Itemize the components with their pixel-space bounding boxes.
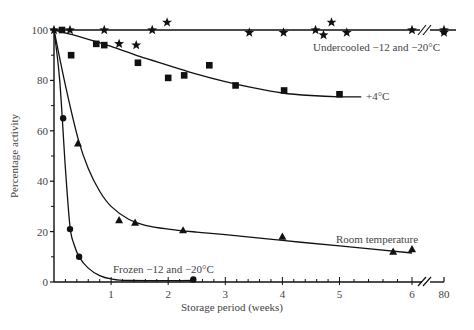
square-marker-icon xyxy=(59,27,66,34)
x-axis-label: Storage period (weeks) xyxy=(181,301,283,314)
label-room-temperature: Room temperature xyxy=(336,233,418,245)
square-marker-icon xyxy=(165,75,172,82)
circle-marker-icon xyxy=(60,115,66,121)
square-marker-icon xyxy=(93,41,100,48)
x-tick-label: 1 xyxy=(108,288,114,300)
frozen-fit-curve xyxy=(54,30,193,281)
triangle-marker-icon xyxy=(408,245,416,252)
x-tick-label: 5 xyxy=(337,288,343,300)
x-tick-label: 4 xyxy=(280,288,286,300)
square-marker-icon xyxy=(135,59,142,66)
square-marker-icon xyxy=(206,62,213,69)
star-marker-icon xyxy=(311,25,321,34)
star-marker-icon xyxy=(319,30,329,39)
circle-marker-icon xyxy=(190,276,196,282)
star-marker-icon xyxy=(342,27,352,36)
y-tick-label: 60 xyxy=(37,125,49,137)
star-marker-icon xyxy=(407,25,417,34)
star-marker-icon xyxy=(162,17,172,26)
percentage-activity-chart: 02040608010012345680 Percentage activity… xyxy=(0,0,474,330)
triangle-marker-icon xyxy=(179,226,187,233)
chart-container: 02040608010012345680 Percentage activity… xyxy=(0,0,474,330)
square-marker-icon xyxy=(281,87,288,94)
star-marker-icon xyxy=(244,27,254,36)
star-marker-icon xyxy=(147,25,157,34)
triangle-marker-icon xyxy=(278,232,286,239)
star-marker-icon xyxy=(327,17,337,26)
square-marker-icon xyxy=(232,82,239,89)
x-tick-label: 6 xyxy=(409,288,415,300)
room-temperature-fit-curve xyxy=(54,30,412,253)
square-marker-icon xyxy=(68,52,75,59)
square-marker-icon xyxy=(336,91,343,98)
x-tick-label: 80 xyxy=(439,288,451,300)
label-plus-4c: +4°C xyxy=(366,90,389,102)
y-tick-label: 20 xyxy=(37,226,49,238)
y-tick-label: 0 xyxy=(43,276,49,288)
label-frozen: Frozen −12 and −20°C xyxy=(113,263,214,275)
y-tick-label: 80 xyxy=(37,74,49,86)
x-tick-label: 2 xyxy=(165,288,171,300)
triangle-marker-icon xyxy=(115,216,123,223)
star-marker-icon xyxy=(131,40,141,49)
star-marker-icon xyxy=(279,27,289,36)
y-tick-label: 100 xyxy=(32,24,49,36)
star-marker-icon xyxy=(99,25,109,34)
triangle-marker-icon xyxy=(74,139,82,146)
circle-marker-icon xyxy=(67,226,73,232)
star-marker-icon xyxy=(114,39,124,48)
y-tick-label: 40 xyxy=(37,175,49,187)
axes: 02040608010012345680 xyxy=(32,24,451,300)
triangle-marker-icon xyxy=(131,219,139,226)
circle-marker-icon xyxy=(76,254,82,260)
label-undercooled: Undercooled −12 and −20°C xyxy=(313,41,440,53)
square-marker-icon xyxy=(101,42,108,49)
x-tick-label: 3 xyxy=(223,288,229,300)
y-axis-label: Percentage activity xyxy=(8,114,20,198)
square-marker-icon xyxy=(181,72,188,79)
